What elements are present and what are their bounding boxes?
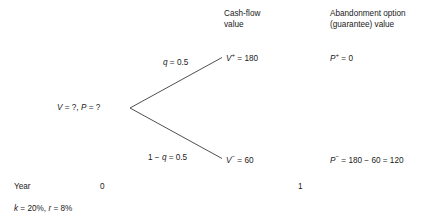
timeline-tick-0: 0 xyxy=(100,181,105,192)
column-header-cashflow: Cash-flow value xyxy=(224,9,260,30)
option-value-down: P− = 180 − 60 = 120 xyxy=(330,151,404,166)
branch-probability-down-value: = 0.5 xyxy=(166,153,187,162)
node-value-down-value: = 60 xyxy=(235,156,253,165)
column-header-abandonment-line1: Abandonment option xyxy=(330,9,406,20)
option-value-up: P+ = 0 xyxy=(330,49,353,64)
assumption-k-value: = 20%, xyxy=(18,204,48,213)
root-node-v-value: = ?, xyxy=(62,103,80,112)
node-value-up-value: = 180 xyxy=(235,54,258,63)
branch-probability-up: q = 0.5 xyxy=(163,57,188,68)
branch-probability-down-prefix: 1 − xyxy=(148,153,162,162)
binomial-tree-diagram: Cash-flow value Abandonment option (guar… xyxy=(0,0,440,219)
option-value-down-value: = 180 − 60 = 120 xyxy=(339,156,403,165)
branch-line-down xyxy=(130,108,222,159)
assumption-r-value: = 8% xyxy=(51,204,72,213)
column-header-cashflow-line2: value xyxy=(224,20,260,31)
assumptions-line: k = 20%, r = 8% xyxy=(14,203,72,214)
column-header-abandonment: Abandonment option (guarantee) value xyxy=(330,9,406,30)
node-value-down: V− = 60 xyxy=(226,151,254,166)
option-value-up-value: = 0 xyxy=(339,54,353,63)
column-header-abandonment-line2: (guarantee) value xyxy=(330,20,406,31)
timeline-tick-1: 1 xyxy=(298,181,303,192)
column-header-cashflow-line1: Cash-flow xyxy=(224,9,260,20)
root-node-p-value: = ? xyxy=(86,103,100,112)
timeline-axis-label: Year xyxy=(14,181,31,192)
branch-probability-down: 1 − q = 0.5 xyxy=(148,152,187,163)
root-node-label: V = ?, P = ? xyxy=(57,102,100,113)
node-value-up: V+ = 180 xyxy=(226,49,258,64)
branch-probability-up-value: = 0.5 xyxy=(168,58,189,67)
